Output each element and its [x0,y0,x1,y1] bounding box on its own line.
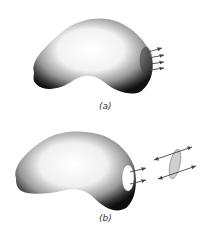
body-a [33,19,152,94]
panel-label-a: (a) [99,101,112,111]
body-b [15,132,136,211]
removed-patch-b [122,165,134,191]
surface-patch-a [140,47,152,73]
panel-a [33,19,164,94]
panel-b [15,132,196,211]
panel-label-b: (b) [99,213,112,223]
figure-canvas [0,0,212,243]
